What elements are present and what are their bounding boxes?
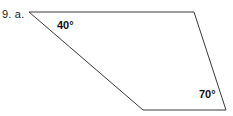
- figure-canvas: 9. a. 40° 70°: [0, 0, 233, 116]
- problem-number-label: 9. a.: [2, 8, 24, 20]
- angle-label-bottom-right: 70°: [199, 88, 216, 100]
- angle-label-top-left: 40°: [57, 19, 74, 31]
